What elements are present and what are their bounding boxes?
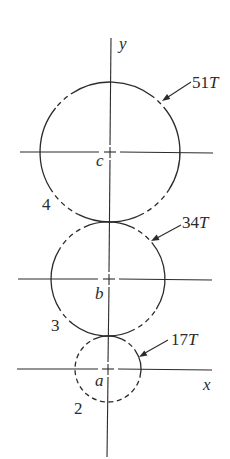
center-mark-b xyxy=(103,274,115,285)
x-axis xyxy=(17,369,212,370)
center-label-a: a xyxy=(95,371,104,390)
arrow-51T xyxy=(162,82,191,101)
gear-3-teeth-suffix: T xyxy=(199,213,210,232)
gear-4-teeth-suffix: T xyxy=(209,73,220,92)
arrow-17T xyxy=(139,340,168,357)
gear-number-3: 3 xyxy=(51,316,60,335)
gear-2-teeth-suffix: T xyxy=(188,330,199,349)
gear-number-4: 4 xyxy=(42,195,51,214)
gear-train-diagram: y x 51T 34T 17T c b a 4 3 2 xyxy=(0,0,230,459)
gear-4-teeth-count: 51 xyxy=(192,73,209,92)
arrow-34T xyxy=(151,225,181,241)
y-axis xyxy=(107,38,111,457)
gear-4-teeth-label: 51T xyxy=(192,73,220,92)
x-axis-label: x xyxy=(202,375,211,394)
center-mark-a xyxy=(102,364,114,375)
gear-2-teeth-label: 17T xyxy=(171,330,199,349)
gear-2-teeth-count: 17 xyxy=(171,330,189,349)
center-label-c: c xyxy=(96,151,104,170)
gear-3-teeth-label: 34T xyxy=(182,213,210,232)
gear-3-teeth-count: 34 xyxy=(182,213,200,232)
gear-number-2: 2 xyxy=(74,399,83,418)
center-mark-c xyxy=(104,147,116,158)
y-axis-label: y xyxy=(117,34,127,53)
center-label-b: b xyxy=(95,284,104,303)
center-line-gear-4 xyxy=(20,152,213,153)
